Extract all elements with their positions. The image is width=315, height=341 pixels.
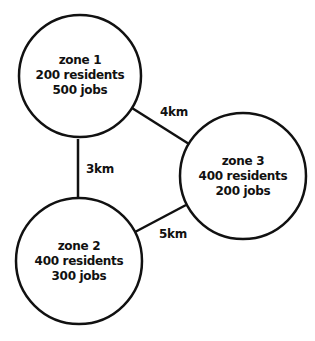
zone-jobs: 300 jobs [19, 269, 139, 284]
zone-name: zone 3 [183, 154, 303, 169]
zone-jobs: 200 jobs [183, 184, 303, 199]
distance-label-4km: 4km [160, 105, 188, 119]
zone-name: zone 1 [20, 53, 140, 68]
zone-2-label: zone 2 400 residents 300 jobs [19, 239, 139, 284]
zone-residents: 400 residents [19, 254, 139, 269]
distance-label-3km: 3km [86, 162, 114, 176]
distance-label-5km: 5km [159, 227, 187, 241]
zone-3-label: zone 3 400 residents 200 jobs [183, 154, 303, 199]
zone-jobs: 500 jobs [20, 83, 140, 98]
zone-1-label: zone 1 200 residents 500 jobs [20, 53, 140, 98]
zone-residents: 200 residents [20, 68, 140, 83]
zone-residents: 400 residents [183, 169, 303, 184]
zone-name: zone 2 [19, 239, 139, 254]
